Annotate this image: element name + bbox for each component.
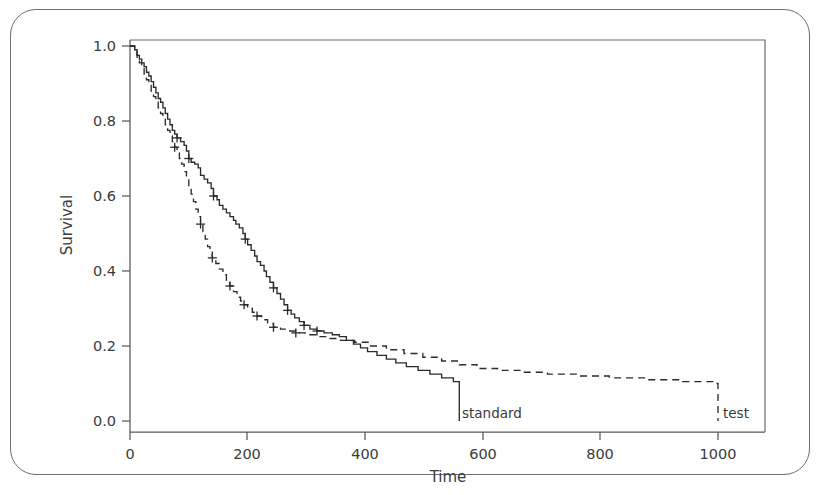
x-tick-label-200: 200: [233, 446, 261, 462]
y-tick-label-0.0: 0.0: [93, 413, 116, 429]
x-tick-label-400: 400: [351, 446, 379, 462]
curve-label-test: test: [723, 405, 749, 421]
series-line-test: [130, 46, 718, 421]
x-tick-label-1000: 1000: [700, 446, 737, 462]
series-group: [130, 46, 718, 421]
x-tick-label-600: 600: [469, 446, 497, 462]
y-tick-label-0.6: 0.6: [93, 188, 116, 204]
y-tick-label-0.2: 0.2: [93, 338, 116, 354]
series-line-standard: [130, 46, 459, 421]
y-axis-tick-labels: 1.0 0.8 0.6 0.4 0.2 0.0: [93, 38, 116, 429]
x-axis-tick-labels: 0 200 400 600 800 1000: [125, 446, 736, 462]
x-axis-ticks: [130, 432, 718, 440]
survival-plot-figure: 1.0 0.8 0.6 0.4 0.2 0.0 0 200 400: [0, 0, 826, 495]
y-axis-ticks: [122, 46, 130, 421]
x-tick-label-0: 0: [125, 446, 134, 462]
scanned-page: 1.0 0.8 0.6 0.4 0.2 0.0 0 200 400: [0, 0, 826, 495]
censor-marks-test: [170, 143, 300, 338]
y-tick-label-0.8: 0.8: [93, 113, 116, 129]
y-tick-label-0.4: 0.4: [93, 263, 116, 279]
y-tick-label-1.0: 1.0: [93, 38, 116, 54]
kaplan-meier-chart: 1.0 0.8 0.6 0.4 0.2 0.0 0 200 400: [0, 0, 826, 495]
y-axis-title: Survival: [58, 195, 76, 255]
plot-box-top-right: [130, 40, 765, 432]
curve-label-standard: standard: [462, 405, 522, 421]
x-tick-label-800: 800: [586, 446, 614, 462]
x-axis-title: Time: [429, 468, 467, 486]
